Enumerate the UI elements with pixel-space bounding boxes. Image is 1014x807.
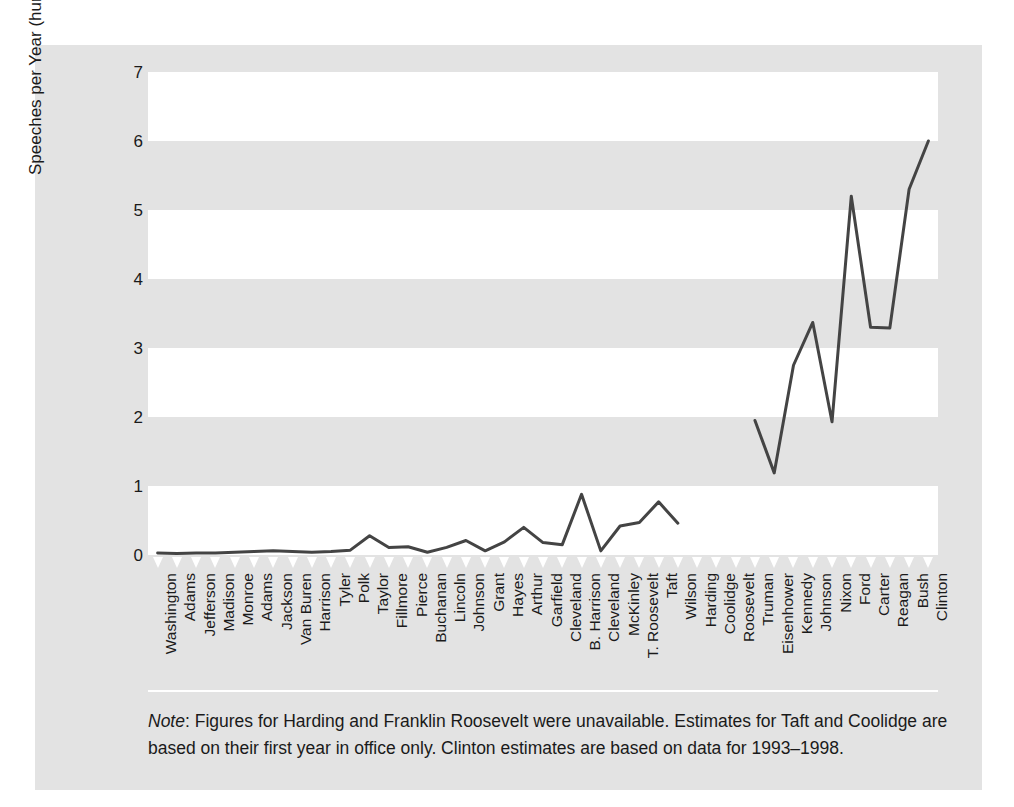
x-tick-mark	[422, 557, 432, 568]
x-tick-mark	[384, 557, 394, 568]
x-tick-label: T. Roosevelt	[645, 573, 661, 658]
x-tick-mark	[885, 557, 895, 568]
y-tick-label: 4	[117, 271, 143, 288]
y-axis-tick-labels: 01234567	[113, 72, 143, 555]
x-tick-label: Jackson	[279, 573, 295, 630]
x-tick-mark	[365, 557, 375, 568]
x-tick-label: Coolidge	[722, 573, 738, 634]
x-tick-mark	[615, 557, 625, 568]
x-tick-label: McKinley	[626, 573, 642, 636]
x-tick-label: Adams	[259, 573, 275, 621]
x-tick-mark	[191, 557, 201, 568]
x-tick-label: Johnson	[471, 573, 487, 632]
x-tick-mark	[538, 557, 548, 568]
series-line-segment	[158, 494, 678, 553]
x-tick-mark	[268, 557, 278, 568]
x-tick-mark	[210, 557, 220, 568]
x-tick-label: Lincoln	[452, 573, 468, 622]
figure-panel: Speeches per Year (hundreds) 01234567 Wa…	[35, 45, 982, 790]
x-tick-mark	[230, 557, 240, 568]
x-tick-mark	[769, 557, 779, 568]
x-tick-mark	[923, 557, 933, 568]
x-tick-label: Truman	[760, 573, 776, 626]
x-tick-mark	[750, 557, 760, 568]
x-tick-label: Adams	[182, 573, 198, 621]
x-tick-label: Carter	[876, 573, 892, 616]
x-tick-mark	[307, 557, 317, 568]
y-tick-label: 3	[117, 340, 143, 357]
x-tick-mark	[519, 557, 529, 568]
x-tick-mark	[788, 557, 798, 568]
y-tick-label: 1	[117, 478, 143, 495]
note-separator-rule	[148, 690, 938, 692]
x-tick-mark	[634, 557, 644, 568]
x-tick-label: Taft	[664, 573, 680, 598]
note-label: Note	[148, 711, 185, 731]
x-tick-mark	[249, 557, 259, 568]
note-text: : Figures for Harding and Franklin Roose…	[148, 711, 947, 758]
x-tick-label: Cleveland	[568, 573, 584, 642]
x-tick-label: Grant	[491, 573, 507, 612]
x-tick-mark	[711, 557, 721, 568]
y-tick-label: 7	[117, 64, 143, 81]
x-tick-mark	[461, 557, 471, 568]
x-tick-mark	[557, 557, 567, 568]
x-tick-label: Garfield	[549, 573, 565, 627]
x-axis-tick-labels: WashingtonAdamsJeffersonMadisonMonroeAda…	[148, 573, 938, 713]
x-tick-mark	[827, 557, 837, 568]
x-tick-label: Harding	[703, 573, 719, 627]
x-tick-mark	[673, 557, 683, 568]
x-tick-mark	[596, 557, 606, 568]
x-tick-mark	[808, 557, 818, 568]
x-tick-label: Wilson	[683, 573, 699, 620]
x-tick-mark	[904, 557, 914, 568]
x-tick-label: Ford	[857, 573, 873, 605]
figure-note: Note: Figures for Harding and Franklin R…	[148, 708, 953, 762]
y-tick-label: 0	[117, 547, 143, 564]
x-tick-label: Arthur	[529, 573, 545, 615]
y-tick-label: 5	[117, 202, 143, 219]
x-tick-mark	[403, 557, 413, 568]
x-tick-label: Clinton	[934, 573, 950, 621]
x-tick-mark	[577, 557, 587, 568]
x-tick-label: B. Harrison	[587, 573, 603, 651]
x-tick-mark	[288, 557, 298, 568]
x-tick-mark	[731, 557, 741, 568]
x-tick-label: Monroe	[240, 573, 256, 626]
x-tick-label: Eisenhower	[780, 573, 796, 654]
y-axis-title: Speeches per Year (hundreds)	[26, 0, 46, 175]
x-tick-label: Polk	[356, 573, 372, 603]
x-tick-label: Roosevelt	[741, 573, 757, 642]
speeches-line-series	[148, 72, 938, 555]
x-tick-mark	[442, 557, 452, 568]
x-tick-label: Cleveland	[606, 573, 622, 642]
x-tick-mark	[153, 557, 163, 568]
y-tick-label: 6	[117, 133, 143, 150]
x-tick-mark	[654, 557, 664, 568]
x-tick-label: Kennedy	[799, 573, 815, 634]
x-tick-label: Reagan	[895, 573, 911, 627]
y-tick-label: 2	[117, 409, 143, 426]
x-tick-label: Washington	[163, 573, 179, 654]
x-tick-label: Taylor	[375, 573, 391, 614]
x-tick-label: Fillmore	[394, 573, 410, 628]
x-tick-mark	[480, 557, 490, 568]
plot-area	[148, 72, 938, 555]
x-tick-mark	[846, 557, 856, 568]
x-tick-mark	[326, 557, 336, 568]
x-tick-mark	[345, 557, 355, 568]
x-tick-mark	[692, 557, 702, 568]
x-tick-label: Bush	[915, 573, 931, 608]
x-tick-mark	[866, 557, 876, 568]
x-tick-mark	[499, 557, 509, 568]
x-tick-label: Johnson	[818, 573, 834, 632]
x-tick-label: Madison	[221, 573, 237, 632]
x-tick-mark	[172, 557, 182, 568]
x-tick-label: Van Buren	[298, 573, 314, 645]
x-tick-label: Tyler	[337, 573, 353, 607]
x-tick-label: Hayes	[510, 573, 526, 617]
x-tick-label: Buchanan	[433, 573, 449, 643]
x-axis-tick-marks	[148, 555, 938, 571]
x-tick-label: Jefferson	[202, 573, 218, 636]
series-line-segment	[755, 141, 928, 473]
